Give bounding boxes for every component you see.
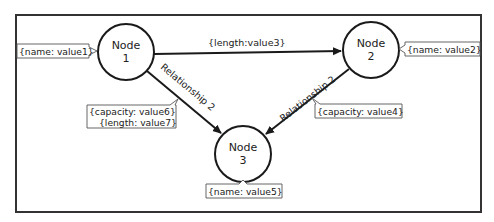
node-number: 2 — [368, 50, 375, 63]
node-title: Node — [112, 39, 141, 52]
node-number: 1 — [123, 52, 130, 65]
node-number: 3 — [240, 154, 247, 167]
node-3: Node 3 — [215, 126, 271, 182]
edge-label-length: {length:value3} — [208, 37, 286, 48]
node-title: Node — [229, 141, 258, 154]
callout-text-line1: {capacity: value6} — [89, 106, 176, 117]
callout-text: {name: value5} — [208, 186, 283, 197]
callout-text: {name: value2} — [407, 44, 482, 55]
property-callout-node1: {name: value1} — [17, 44, 97, 58]
callout-text-line2: {length: value7} — [99, 117, 177, 128]
node-title: Node — [357, 37, 386, 50]
property-callout-node2: {name: value2} — [399, 42, 482, 56]
graph-diagram: {length:value3} Relationship 2 Relations… — [0, 0, 494, 222]
callout-text: {capacity: value4} — [317, 106, 404, 117]
callout-text: {name: value1} — [19, 46, 94, 57]
node-2: Node 2 — [343, 22, 399, 78]
node-1: Node 1 — [98, 24, 154, 80]
